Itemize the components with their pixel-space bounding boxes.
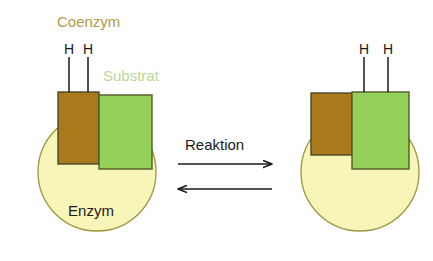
- coenzyme-box-right: [311, 93, 352, 155]
- hydrogen-label-right-2: H: [383, 41, 393, 57]
- diagram-canvas: H H Coenzym Substrat Enzym Reaktion: [0, 0, 433, 261]
- substrate-box-right: [352, 92, 409, 169]
- substrate-label: Substrat: [103, 67, 160, 84]
- hydrogen-label-left-1: H: [64, 41, 74, 57]
- coenzyme-label: Coenzym: [57, 13, 120, 30]
- reaction-label: Reaktion: [185, 136, 244, 153]
- coenzyme-box-left: [58, 92, 99, 164]
- substrate-box-left: [99, 95, 152, 169]
- hydrogen-label-right-1: H: [359, 41, 369, 57]
- enzyme-reaction-figure: H H Coenzym Substrat Enzym Reaktion: [0, 0, 433, 261]
- hydrogen-label-left-2: H: [83, 41, 93, 57]
- enzyme-label: Enzym: [68, 202, 114, 219]
